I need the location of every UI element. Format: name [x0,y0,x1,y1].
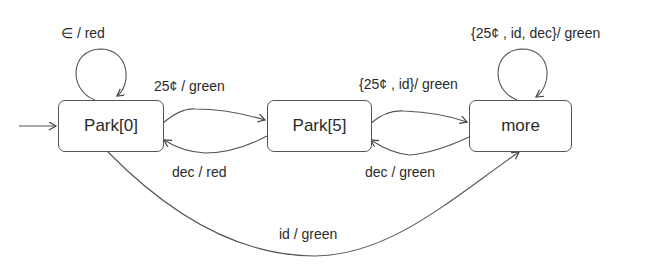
label-self-more: {25¢ , id, dec}/ green [471,25,600,41]
label-park0-park5: 25¢ / green [154,78,225,94]
edge-park5-more [371,111,467,123]
self-loop-more [498,49,547,100]
state-park5: Park[5] [267,100,372,152]
state-more: more [469,100,572,152]
label-more-park5: dec / green [365,164,435,180]
edge-park0-park5 [163,109,265,123]
label-self-park0: ∈ / red [61,25,105,41]
label-park5-more: {25¢ , id}/ green [359,76,458,92]
edge-park5-park0 [164,136,267,153]
label-park5-park0: dec / red [172,164,226,180]
self-loop-park0 [76,49,126,100]
label-park0-more: id / green [279,226,337,242]
edge-more-park5 [371,137,469,155]
state-park0: Park[0] [58,100,164,152]
